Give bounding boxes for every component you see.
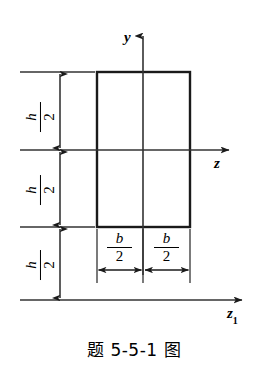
axis-label-z1: z1 [227,306,238,324]
dimension-label-h-lower: h 2 [24,175,58,205]
fraction-numerator: h [24,175,40,205]
axis-label-z-text: z [214,155,220,171]
fraction-numerator: h [24,102,40,132]
axis-label-z: z [214,156,220,171]
fraction-numerator: b [154,231,179,247]
dimension-label-h-upper: h 2 [24,102,58,132]
dimension-label-b-right: b 2 [154,231,179,265]
fraction-denominator: 2 [42,250,58,280]
axis-label-z1-subscript: 1 [233,315,238,326]
dimension-label-h-offset: h 2 [24,250,58,280]
fraction-denominator: 2 [154,249,179,265]
fraction-denominator: 2 [42,102,58,132]
dimension-label-b-left: b 2 [107,231,132,265]
fraction-numerator: h [24,250,40,280]
fraction-numerator: b [107,231,132,247]
fraction-denominator: 2 [107,249,132,265]
fraction-denominator: 2 [42,175,58,205]
axis-label-z1-text: z [227,305,233,321]
figure-caption: 题 5-5-1 图 [0,336,268,361]
axis-label-y: y [124,30,131,45]
axis-label-y-text: y [124,29,131,45]
figure-container: h 2 h 2 h 2 b 2 b 2 y z z1 题 5-5-1 图 [0,0,268,372]
